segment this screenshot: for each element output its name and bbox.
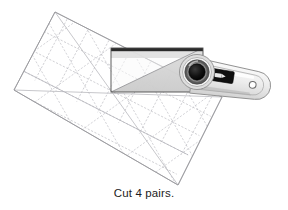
cutter-blade-hub-icon [189, 64, 205, 80]
figure-caption: Cut 4 pairs. [0, 186, 288, 200]
cutter-handle-hole-icon [249, 81, 257, 89]
quilting-ruler [0, 0, 262, 210]
fabric-top-edge [111, 48, 203, 51]
cutter-blade-assembly [180, 55, 215, 90]
quilting-illustration [0, 0, 288, 210]
figure-container: Cut 4 pairs. [0, 0, 288, 210]
